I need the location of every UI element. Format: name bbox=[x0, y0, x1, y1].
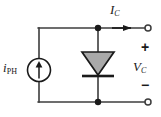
junction-dot-bottom bbox=[95, 99, 101, 105]
current-source-subscript: PH bbox=[7, 67, 18, 76]
current-source-label: iPH bbox=[3, 61, 17, 76]
polarity-plus-sign: + bbox=[141, 40, 149, 54]
polarity-minus-sign: − bbox=[141, 78, 149, 92]
terminal-voltage-symbol: V bbox=[133, 59, 141, 74]
open-terminal-bottom bbox=[145, 99, 151, 105]
diode-triangle bbox=[82, 52, 114, 75]
terminal-current-label: IC bbox=[110, 3, 120, 18]
photodiode-equivalent-circuit-figure: iPH IC VC + − bbox=[0, 0, 161, 117]
junction-dot-top bbox=[95, 25, 101, 31]
terminal-voltage-label: VC bbox=[133, 60, 146, 75]
open-terminal-top bbox=[145, 25, 151, 31]
terminal-voltage-subscript: C bbox=[141, 66, 146, 75]
terminal-current-subscript: C bbox=[114, 9, 119, 18]
